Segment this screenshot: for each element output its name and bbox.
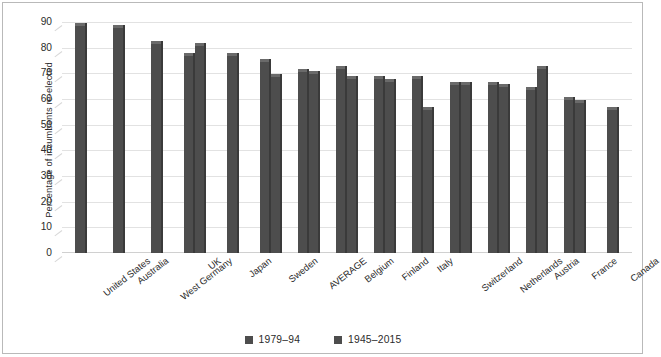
- x-axis-category-labels: United StatesAustraliaWest GermanyUKJapa…: [62, 255, 632, 327]
- legend-item[interactable]: 1945–2015: [334, 334, 401, 345]
- bar: [298, 71, 308, 253]
- y-axis-tick-label: 20: [26, 197, 52, 207]
- bar: [564, 99, 574, 253]
- bar-group: [488, 22, 509, 253]
- bar-group: [336, 22, 357, 253]
- legend-label: 1979–94: [259, 334, 301, 345]
- bar-top-cap: [450, 82, 460, 85]
- bar: [450, 84, 460, 253]
- bar-group: [75, 22, 85, 253]
- bar-side-edge: [470, 82, 472, 253]
- bar-top-cap: [488, 82, 498, 85]
- bar-side-edge: [617, 107, 619, 253]
- bar-group: [374, 22, 395, 253]
- bar-top-cap: [412, 76, 422, 79]
- bar: [151, 43, 161, 253]
- bar: [227, 55, 237, 253]
- bar-side-edge: [432, 107, 434, 253]
- bar: [423, 109, 433, 253]
- bar-top-cap: [195, 43, 205, 46]
- bar-top-cap: [499, 84, 509, 87]
- bar: [309, 73, 319, 253]
- bar: [374, 78, 384, 253]
- bar: [336, 68, 346, 253]
- bar: [113, 27, 123, 253]
- bar: [412, 78, 422, 253]
- x-axis-label: Switzerland: [479, 255, 524, 294]
- bar-group: [564, 22, 585, 253]
- bar-top-cap: [75, 23, 85, 26]
- y-axis-tick-label: 60: [26, 94, 52, 104]
- y-axis-tick-label: 70: [26, 68, 52, 78]
- bar: [526, 89, 536, 253]
- bar-top-cap: [374, 76, 384, 79]
- bar-top-cap: [151, 41, 161, 44]
- bar: [260, 61, 270, 254]
- bar: [488, 84, 498, 253]
- bar-side-edge: [237, 53, 239, 253]
- bar-top-cap: [271, 74, 281, 77]
- bar: [461, 84, 471, 253]
- bar-top-cap: [298, 69, 308, 72]
- bar-top-cap: [385, 79, 395, 82]
- bar-top-cap: [260, 59, 270, 62]
- bar: [271, 76, 281, 253]
- bar: [575, 102, 585, 253]
- y-axis-tick-label: 30: [26, 171, 52, 181]
- bar-group: [298, 22, 319, 253]
- bar-top-cap: [461, 82, 471, 85]
- bar-top-cap: [309, 71, 319, 74]
- bar: [347, 78, 357, 253]
- bar: [75, 25, 85, 253]
- x-axis-label: Japan: [246, 255, 273, 279]
- y-axis-tick-label: 10: [26, 222, 52, 232]
- bar-side-edge: [546, 66, 548, 253]
- x-axis-label: AVERAGE: [326, 255, 368, 291]
- bar-side-edge: [508, 84, 510, 253]
- bar-top-cap: [575, 100, 585, 103]
- bar-top-cap: [227, 53, 237, 56]
- legend-label: 1945–2015: [348, 334, 401, 345]
- bar: [195, 45, 205, 253]
- bar-top-cap: [537, 66, 547, 69]
- bar: [537, 68, 547, 253]
- plot-area: [62, 22, 632, 253]
- y-axis-tick-label: 80: [26, 43, 52, 53]
- y-axis-tick-label: 40: [26, 145, 52, 155]
- bar-side-edge: [85, 23, 87, 253]
- bar-group: [526, 22, 547, 253]
- bar-group: [412, 22, 433, 253]
- bar-group: [260, 22, 281, 253]
- bar-side-edge: [280, 74, 282, 253]
- bar-top-cap: [336, 66, 346, 69]
- bar: [607, 109, 617, 253]
- bar-top-cap: [607, 107, 617, 110]
- y-axis-tick-label: 90: [26, 17, 52, 27]
- bar-top-cap: [184, 53, 194, 56]
- bar: [385, 81, 395, 253]
- bar-top-cap: [423, 107, 433, 110]
- bar-top-cap: [113, 25, 123, 28]
- bar-group: [450, 22, 471, 253]
- y-axis-tick-label: 0: [26, 248, 52, 258]
- legend-item[interactable]: 1979–94: [245, 334, 301, 345]
- bar: [499, 86, 509, 253]
- bar-group: [151, 22, 161, 253]
- x-axis-label: France: [589, 255, 619, 282]
- bar-side-edge: [161, 41, 163, 253]
- bar-side-edge: [204, 43, 206, 253]
- bar-side-edge: [584, 100, 586, 253]
- x-axis-label: Belgium: [362, 255, 395, 285]
- bar-top-cap: [347, 76, 357, 79]
- bar-side-edge: [318, 71, 320, 253]
- bar-group: [607, 22, 617, 253]
- chart-legend: 1979–941945–2015: [0, 334, 646, 345]
- y-axis-tick-label: 50: [26, 120, 52, 130]
- bar-side-edge: [356, 76, 358, 253]
- bar-side-edge: [123, 25, 125, 253]
- bar-top-cap: [526, 87, 536, 90]
- x-axis-label: Italy: [435, 255, 455, 274]
- bar: [184, 55, 194, 253]
- x-axis-label: Finland: [400, 255, 431, 283]
